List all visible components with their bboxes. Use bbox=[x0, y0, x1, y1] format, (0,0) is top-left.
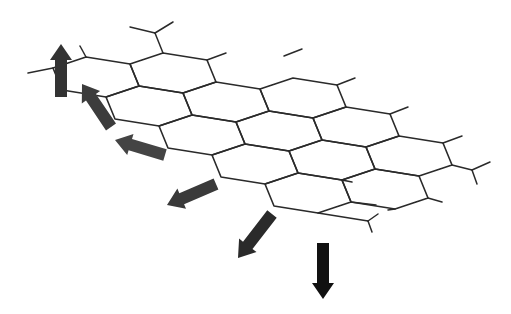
dangling-bond-branch bbox=[472, 162, 490, 170]
dangling-bond-branch bbox=[368, 221, 372, 232]
dangling-bond bbox=[318, 213, 368, 221]
dangling-bond bbox=[443, 136, 462, 143]
dangling-bond-branch bbox=[368, 214, 378, 221]
dangling-bond bbox=[28, 68, 53, 73]
dangling-bond bbox=[337, 78, 355, 85]
dangling-bond bbox=[390, 107, 408, 114]
dangling-bond bbox=[388, 209, 395, 210]
displacement-arrows bbox=[50, 44, 334, 299]
dangling-bond bbox=[80, 46, 86, 57]
arrow-left-down-icon bbox=[167, 179, 218, 209]
hexagon-cell bbox=[366, 136, 452, 176]
arrow-left-up-icon bbox=[115, 134, 167, 161]
dangling-bond bbox=[155, 33, 163, 53]
dangling-bond-branch bbox=[130, 27, 155, 33]
arrow-down-left-icon bbox=[238, 210, 277, 258]
dangling-bond bbox=[452, 165, 472, 170]
hexagonal-lattice bbox=[0, 0, 511, 314]
dangling-bond bbox=[207, 53, 226, 60]
lattice-diagram bbox=[0, 0, 511, 314]
dangling-bond bbox=[284, 49, 302, 56]
dangling-bond-branch bbox=[472, 170, 477, 184]
dangling-bond bbox=[428, 198, 442, 202]
arrow-down-icon bbox=[312, 243, 334, 299]
dangling-bond-branch bbox=[155, 22, 173, 33]
lattice-bonds bbox=[53, 53, 452, 213]
